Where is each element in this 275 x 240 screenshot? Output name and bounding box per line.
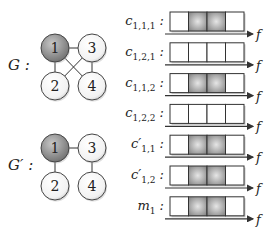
graph-g-prime: 1324 — [41, 134, 107, 202]
row-label: c1,2,2 : — [125, 105, 164, 123]
active-cell — [207, 135, 226, 154]
graph-g: 1324 — [41, 34, 107, 102]
signal-row: f — [165, 197, 263, 227]
empty-cell — [189, 104, 208, 123]
node-label: 4 — [88, 178, 97, 194]
signal-row: f — [165, 104, 263, 134]
node-label: 3 — [88, 40, 97, 56]
empty-cell — [170, 74, 189, 93]
node-label: 1 — [51, 40, 60, 56]
axis-label-f: f — [255, 181, 263, 196]
empty-cell — [207, 43, 226, 62]
empty-cell — [207, 104, 226, 123]
graph-label: G : — [8, 56, 30, 74]
active-cell — [189, 12, 208, 31]
active-cell — [189, 166, 208, 185]
axis-label-f: f — [255, 150, 263, 165]
axis-label-f: f — [255, 58, 263, 73]
row-label: m1 : — [137, 198, 164, 216]
empty-cell — [226, 12, 245, 31]
axis-label-f: f — [255, 119, 263, 134]
empty-cell — [170, 135, 189, 154]
active-cell — [207, 74, 226, 93]
empty-cell — [226, 197, 245, 216]
active-cell — [207, 197, 226, 216]
axis-label-f: f — [255, 27, 263, 42]
empty-cell — [226, 166, 245, 185]
signal-row: f — [165, 135, 263, 165]
empty-cell — [226, 135, 245, 154]
axis-label-f: f — [255, 89, 263, 104]
row-label: c1,1,1 : — [125, 13, 164, 31]
active-cell — [189, 74, 208, 93]
empty-cell — [226, 74, 245, 93]
row-label: c1,1,2 : — [125, 75, 164, 93]
axis-label-f: f — [255, 212, 263, 227]
signal-row: f — [165, 166, 263, 196]
signal-row: f — [165, 12, 263, 42]
empty-cell — [189, 43, 208, 62]
node-label: 4 — [88, 78, 97, 94]
empty-cell — [226, 43, 245, 62]
active-cell — [189, 197, 208, 216]
active-cell — [189, 135, 208, 154]
active-cell — [207, 12, 226, 31]
empty-cell — [170, 166, 189, 185]
empty-cell — [170, 43, 189, 62]
empty-cell — [170, 197, 189, 216]
signal-row: f — [165, 43, 263, 73]
empty-cell — [170, 12, 189, 31]
empty-cell — [226, 104, 245, 123]
row-label: c1,2,1 : — [125, 44, 164, 62]
node-label: 2 — [51, 178, 60, 194]
active-cell — [207, 166, 226, 185]
signal-row: f — [165, 74, 263, 104]
empty-cell — [170, 104, 189, 123]
graph-label: G′ : — [8, 156, 33, 174]
node-label: 2 — [51, 78, 60, 94]
row-label: c′1,1 : — [131, 136, 164, 154]
row-label: c′1,2 : — [131, 167, 164, 185]
node-label: 1 — [51, 140, 60, 156]
node-label: 3 — [88, 140, 97, 156]
